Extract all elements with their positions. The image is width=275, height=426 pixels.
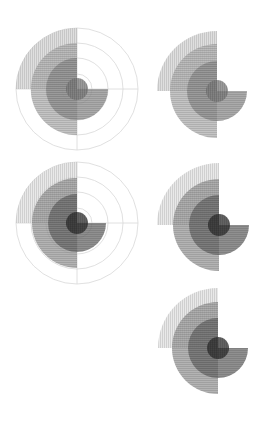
wedge-hatch-layer-4 — [66, 212, 88, 234]
wedge-hatch-layer-4 — [208, 214, 230, 236]
polar-charts-canvas — [0, 0, 275, 426]
wedge-hatch-layer-4 — [66, 78, 88, 100]
polar-chart-5 — [158, 288, 248, 394]
wedge-hatch-layer-4 — [207, 337, 229, 359]
wedge-hatch-layer-4 — [206, 80, 228, 102]
polar-chart-1 — [16, 28, 138, 150]
polar-chart-4 — [157, 163, 249, 271]
polar-chart-2 — [157, 31, 247, 138]
polar-chart-3 — [16, 162, 138, 284]
